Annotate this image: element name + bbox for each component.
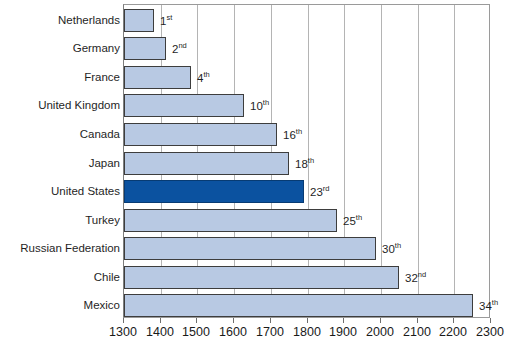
rank-suffix: nd — [178, 41, 186, 50]
rank-suffix: th — [492, 298, 498, 307]
bar — [124, 123, 277, 146]
bar — [124, 180, 304, 203]
rank-number: 16 — [283, 129, 296, 141]
rank-annotation: 16th — [283, 129, 302, 141]
rank-suffix: th — [356, 213, 362, 222]
rank-annotation: 30th — [382, 243, 401, 255]
x-tick — [380, 318, 381, 323]
bar — [124, 37, 166, 60]
category-axis-labels: NetherlandsGermanyFranceUnited KingdomCa… — [0, 0, 120, 318]
category-label: Turkey — [0, 214, 120, 226]
x-tick-label: 1600 — [219, 325, 247, 339]
rank-number: 30 — [382, 243, 395, 255]
category-label: France — [0, 71, 120, 83]
x-tick-label: 2100 — [403, 325, 431, 339]
rank-suffix: nd — [418, 270, 426, 279]
x-tick — [343, 318, 344, 323]
rank-annotation: 32nd — [405, 272, 426, 284]
bar — [124, 294, 473, 317]
rank-suffix: th — [395, 241, 401, 250]
category-label: Japan — [0, 157, 120, 169]
category-label: Germany — [0, 42, 120, 54]
x-tick-label: 1900 — [329, 325, 357, 339]
x-tick — [123, 318, 124, 323]
bar — [124, 94, 244, 117]
rank-annotation: 1st — [160, 15, 172, 27]
category-label: Mexico — [0, 299, 120, 311]
x-tick-label: 1800 — [293, 325, 321, 339]
rank-annotation: 4th — [197, 72, 210, 84]
rank-suffix: th — [203, 70, 209, 79]
rank-suffix: st — [166, 13, 172, 22]
category-label: United States — [0, 185, 120, 197]
x-tick — [233, 318, 234, 323]
rank-number: 32 — [405, 272, 418, 284]
rank-number: 18 — [295, 158, 308, 170]
rank-number: 10 — [250, 100, 263, 112]
bar — [124, 266, 399, 289]
x-tick-label: 2200 — [439, 325, 467, 339]
rank-number: 23 — [310, 186, 323, 198]
x-tick-label: 1500 — [182, 325, 210, 339]
x-tick-label: 1700 — [256, 325, 284, 339]
bar — [124, 209, 337, 232]
rank-annotation: 25th — [343, 215, 362, 227]
bar-chart: NetherlandsGermanyFranceUnited KingdomCa… — [0, 0, 510, 352]
plot-area: 1st2nd4th10th16th18th23rd25th30th32nd34t… — [123, 4, 490, 318]
x-tick-label: 2000 — [366, 325, 394, 339]
rank-number: 34 — [479, 300, 492, 312]
bar — [124, 66, 191, 89]
gridline — [454, 5, 455, 317]
x-tick — [307, 318, 308, 323]
category-label: Canada — [0, 128, 120, 140]
bar — [124, 9, 154, 32]
category-label: Chile — [0, 271, 120, 283]
x-tick — [196, 318, 197, 323]
bar — [124, 237, 376, 260]
rank-suffix: rd — [323, 184, 330, 193]
category-label: Russian Federation — [0, 242, 120, 254]
rank-annotation: 23rd — [310, 186, 329, 198]
category-label: United Kingdom — [0, 99, 120, 111]
rank-number: 25 — [343, 215, 356, 227]
rank-suffix: th — [296, 127, 302, 136]
rank-annotation: 18th — [295, 158, 314, 170]
x-axis: 1300140015001600170018001900200021002200… — [123, 318, 490, 352]
x-tick — [490, 318, 491, 323]
rank-annotation: 10th — [250, 100, 269, 112]
x-tick — [417, 318, 418, 323]
x-tick — [160, 318, 161, 323]
category-label: Netherlands — [0, 14, 120, 26]
x-tick-label: 1400 — [146, 325, 174, 339]
x-tick — [270, 318, 271, 323]
rank-annotation: 34th — [479, 300, 498, 312]
rank-suffix: th — [308, 156, 314, 165]
x-tick — [453, 318, 454, 323]
x-tick-label: 1300 — [109, 325, 137, 339]
rank-suffix: th — [263, 98, 269, 107]
rank-annotation: 2nd — [172, 43, 187, 55]
x-tick-label: 2300 — [476, 325, 504, 339]
bar — [124, 152, 289, 175]
